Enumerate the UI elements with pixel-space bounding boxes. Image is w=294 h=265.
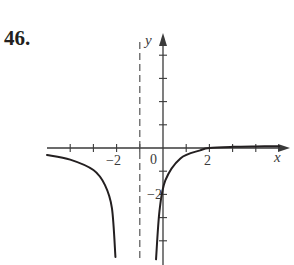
curve-right-branch (156, 146, 279, 259)
axes (47, 33, 290, 265)
y-axis-arrow-icon (159, 33, 167, 46)
y-tick-label-neg2: −2 (147, 187, 162, 202)
y-axis-label: y (143, 32, 152, 48)
origin-label: 0 (150, 152, 157, 167)
x-tick-label-2: 2 (204, 153, 211, 168)
x-axis-label: x (273, 149, 281, 165)
x-tick-label-neg2: −2 (106, 153, 121, 168)
curve-left-branch (47, 155, 115, 257)
plot-area: x y 0 −2 2 −2 (0, 0, 294, 265)
figure: 46. x y 0 −2 2 −2 (0, 0, 294, 265)
